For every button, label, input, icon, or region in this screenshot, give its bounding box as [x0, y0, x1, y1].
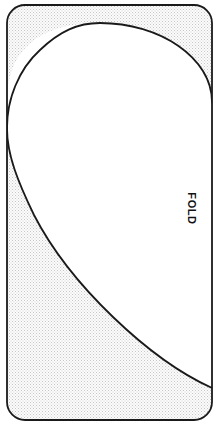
shaded-base-layer — [7, 5, 212, 420]
fold-diagram-svg — [0, 0, 221, 436]
diagram-canvas: FOLD — [0, 0, 221, 436]
